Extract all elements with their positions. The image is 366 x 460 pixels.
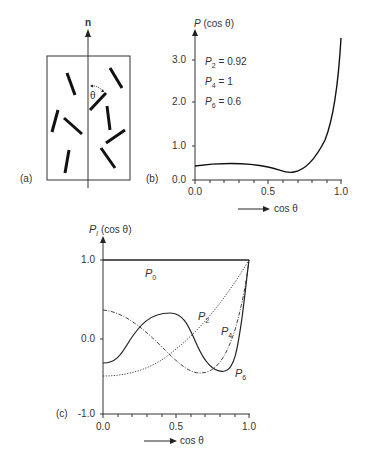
y-tick-label: 0.0 [172, 174, 186, 185]
panel-label-a: (a) [20, 173, 32, 184]
annotation-p2: P2= 0.92 [205, 56, 247, 69]
x-tick-label: 1.0 [334, 186, 348, 197]
panel-b: (b) P (cos θ) 0.0 1.0 2.0 3.0 0.0 0.5 1.… [146, 18, 348, 214]
x-axis-label: cos θ [180, 435, 204, 446]
x-tick-label: 0.5 [169, 421, 183, 432]
arrow-up-icon [192, 29, 198, 36]
distribution-curve [195, 38, 341, 172]
x-tick-label: 1.0 [242, 421, 256, 432]
curve-p2 [103, 260, 249, 376]
annotation-p6: P6= 0.6 [205, 96, 242, 109]
y-tick-label: 0.0 [81, 333, 95, 344]
y-tick-label: -1.0 [78, 408, 96, 419]
figure-canvas: n θ (a) (b) P (cos θ) [0, 0, 366, 460]
arrow-up-icon [85, 29, 91, 37]
panel-label-c: (c) [56, 408, 68, 419]
arc-arrowhead-icon [90, 85, 93, 88]
x-ticks [103, 414, 249, 418]
x-tick-label: 0.5 [261, 186, 275, 197]
arrow-right-icon [170, 438, 177, 444]
x-tick-label: 0.0 [96, 421, 110, 432]
panel-c: (c) Pl(cos θ) -1.0 0.0 1.0 0.0 0.5 1.0 c… [56, 223, 256, 446]
x-ticks [195, 180, 341, 184]
panel-a: n θ (a) [20, 17, 130, 188]
y-axis-label: Pl(cos θ) [89, 223, 131, 237]
arrow-up-icon [100, 236, 106, 243]
arrow-right-icon [263, 206, 270, 212]
panel-label-b: (b) [146, 173, 158, 184]
annotation-p4: P4= 1 [205, 76, 233, 89]
y-tick-label: 3.0 [172, 54, 186, 65]
curve-p6 [103, 260, 249, 371]
x-axis-label: cos θ [274, 203, 298, 214]
y-axis-label: P (cos θ) [194, 18, 234, 29]
curve-label-p4: P4 [221, 325, 232, 339]
y-tick-label: 2.0 [172, 96, 186, 107]
theta-label: θ [90, 90, 96, 101]
director-label: n [85, 17, 91, 28]
y-tick-label: 1.0 [81, 254, 95, 265]
x-tick-label: 0.0 [188, 186, 202, 197]
curve-label-p2: P2 [198, 310, 209, 324]
curve-label-p6: P6 [235, 367, 246, 381]
curve-p4 [103, 260, 249, 373]
curve-label-p0: P0 [145, 267, 156, 281]
y-tick-label: 1.0 [172, 140, 186, 151]
